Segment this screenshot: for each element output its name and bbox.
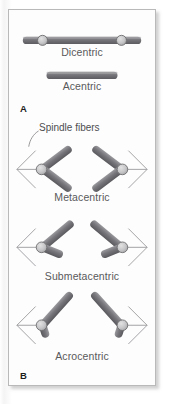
acrocentric-chromosome-graphic bbox=[17, 290, 147, 344]
caption-dicentric: Dicentric bbox=[9, 46, 155, 58]
left-chromatid bbox=[37, 219, 75, 259]
spindle-fibers-leader-line bbox=[29, 131, 39, 147]
caption-acentric: Acentric bbox=[9, 80, 155, 92]
centromere-marker bbox=[36, 242, 47, 253]
caption-submetacentric: Submetacentric bbox=[9, 270, 155, 282]
panel-letter-a: A bbox=[20, 103, 27, 114]
metacentric-chromosome-graphic bbox=[17, 144, 147, 193]
submetacentric-chromosome-graphic bbox=[17, 219, 147, 266]
caption-acrocentric: Acrocentric bbox=[9, 350, 155, 362]
dicentric-chromosome-graphic bbox=[23, 35, 141, 45]
centromere-marker bbox=[116, 35, 126, 45]
centromere-marker bbox=[36, 164, 47, 175]
right-chromatid bbox=[89, 219, 127, 259]
centromere-marker bbox=[117, 164, 128, 175]
acentric-chromosome-graphic bbox=[46, 72, 117, 79]
spindle-fibers-annotation: Spindle fibers bbox=[39, 122, 100, 133]
centromere-marker bbox=[36, 320, 47, 331]
caption-metacentric: Metacentric bbox=[9, 191, 155, 203]
left-chromatid bbox=[37, 290, 75, 338]
right-chromatid bbox=[89, 290, 127, 338]
centromere-marker bbox=[117, 320, 128, 331]
chromosome-abnormality-figure: Dicentric Acentric A Spindle fibers Meta… bbox=[0, 0, 171, 404]
centromere-marker bbox=[117, 242, 128, 253]
panel-letter-b: B bbox=[20, 370, 27, 381]
centromere-marker bbox=[38, 35, 48, 45]
figure-panel: Dicentric Acentric A Spindle fibers Meta… bbox=[8, 9, 156, 386]
